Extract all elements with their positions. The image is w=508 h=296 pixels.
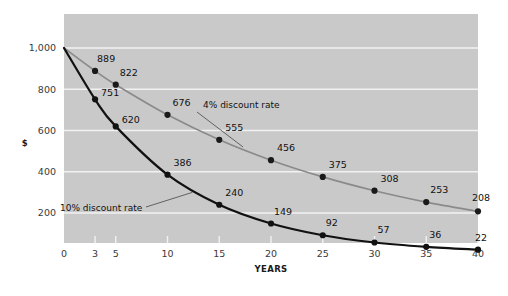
- data-point-marker: [216, 202, 222, 208]
- data-point-label: 92: [326, 217, 338, 228]
- x-tick-label: 30: [368, 248, 380, 259]
- x-tick-label: 10: [161, 248, 173, 259]
- data-point-marker: [113, 123, 119, 129]
- data-point-label: 751: [101, 87, 119, 98]
- x-tick-label: 0: [61, 248, 67, 259]
- data-point-label: 240: [225, 187, 243, 198]
- chart-figure: 2004006008001,000$03510152025303540YEARS…: [0, 0, 508, 296]
- data-point-label: 253: [430, 184, 448, 195]
- x-axis-title: YEARS: [253, 264, 287, 274]
- data-point-marker: [92, 68, 98, 74]
- data-point-label: 889: [97, 53, 115, 64]
- y-axis-title: $: [22, 138, 28, 148]
- data-point-marker: [475, 208, 481, 214]
- data-point-marker: [164, 172, 170, 178]
- data-point-label: 308: [381, 173, 399, 184]
- data-point-marker: [268, 220, 274, 226]
- y-tick-label: 200: [38, 207, 56, 218]
- x-tick-label: 5: [113, 248, 119, 259]
- y-tick-label: 800: [38, 84, 56, 95]
- data-point-marker: [320, 174, 326, 180]
- data-point-label: 620: [122, 114, 140, 125]
- data-point-label: 149: [274, 206, 292, 217]
- data-point-label: 57: [378, 224, 390, 235]
- data-point-label: 208: [472, 192, 490, 203]
- x-tick-label: 3: [92, 248, 98, 259]
- data-point-marker: [92, 96, 98, 102]
- data-point-marker: [423, 244, 429, 250]
- series-annotation-label: 10% discount rate: [60, 203, 143, 213]
- data-point-label: 676: [173, 97, 191, 108]
- x-tick-label: 15: [213, 248, 225, 259]
- data-point-label: 375: [329, 159, 347, 170]
- data-point-label: 555: [225, 122, 243, 133]
- data-point-marker: [371, 239, 377, 245]
- data-point-marker: [423, 199, 429, 205]
- data-point-marker: [268, 157, 274, 163]
- x-tick-label: 20: [265, 248, 277, 259]
- data-point-label: 386: [174, 157, 192, 168]
- y-tick-label: 600: [38, 125, 56, 136]
- data-point-marker: [475, 247, 481, 253]
- data-point-label: 22: [475, 232, 487, 243]
- y-tick-label: 1,000: [29, 42, 56, 53]
- series-annotation-label: 4% discount rate: [203, 100, 280, 110]
- data-point-marker: [320, 232, 326, 238]
- data-point-marker: [164, 112, 170, 118]
- discount-rate-line-chart: 2004006008001,000$03510152025303540YEARS…: [0, 0, 508, 296]
- data-point-label: 456: [277, 142, 295, 153]
- x-tick-label: 25: [317, 248, 329, 259]
- y-tick-label: 400: [38, 166, 56, 177]
- data-point-label: 36: [429, 229, 441, 240]
- data-point-marker: [371, 188, 377, 194]
- data-point-label: 822: [120, 67, 138, 78]
- data-point-marker: [216, 137, 222, 143]
